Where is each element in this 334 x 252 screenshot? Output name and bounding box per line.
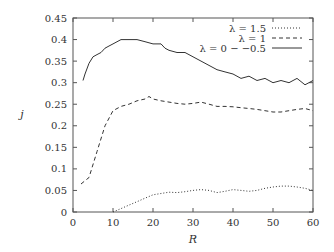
y-axis-label: j: [17, 108, 24, 121]
y-tick-label: 0.15: [45, 142, 67, 153]
x-axis-label: R: [188, 233, 197, 246]
y-tick-label: 0.1: [51, 163, 67, 174]
y-tick-label: 0: [61, 207, 67, 218]
series-dashed-line: [81, 97, 313, 185]
series-dotted-line: [113, 186, 313, 212]
y-tick-label: 0.4: [51, 34, 67, 45]
x-tick-label: 30: [187, 217, 200, 228]
x-tick-label: 0: [70, 217, 76, 228]
axis-ticks: 010203040506000.050.10.150.20.250.30.350…: [45, 13, 320, 229]
y-tick-label: 0.3: [51, 77, 67, 88]
y-tick-label: 0.45: [45, 13, 67, 24]
x-tick-label: 10: [107, 217, 120, 228]
x-tick-label: 50: [267, 217, 280, 228]
plot-frame: [73, 18, 313, 212]
y-tick-label: 0.35: [45, 56, 67, 67]
series-solid-line: [83, 40, 313, 85]
x-tick-label: 40: [227, 217, 240, 228]
y-tick-label: 0.25: [45, 99, 67, 110]
x-tick-label: 20: [147, 217, 160, 228]
line-chart: 010203040506000.050.10.150.20.250.30.350…: [0, 0, 334, 252]
plot-area-border: [73, 18, 313, 212]
x-tick-label: 60: [307, 217, 320, 228]
legend: λ = 1.5λ = 1λ = 0 − −0.5: [200, 23, 302, 54]
series-lines: [81, 40, 313, 212]
y-tick-label: 0.2: [51, 120, 67, 131]
y-tick-label: 0.05: [45, 185, 67, 196]
legend-label: λ = 0 − −0.5: [200, 43, 266, 54]
